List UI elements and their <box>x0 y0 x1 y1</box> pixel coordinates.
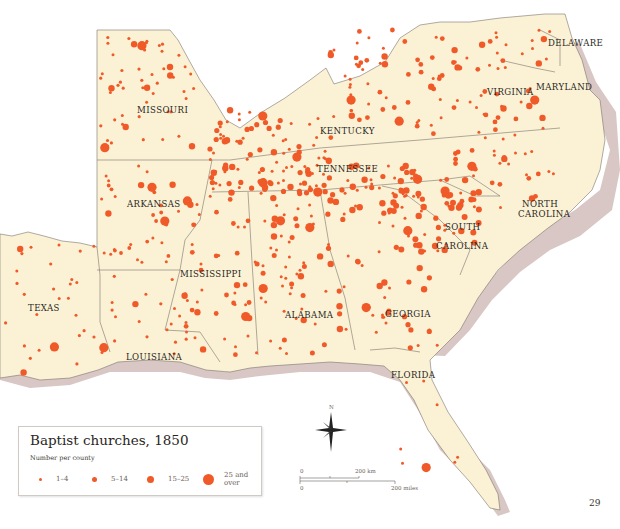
state-label: KENTUCKY <box>320 126 375 136</box>
scale-miles-end: 200 miles <box>391 485 418 491</box>
legend-label: 25 and over <box>224 471 252 487</box>
state-label: TENNESSEE <box>317 164 378 174</box>
state-label: NORTH <box>522 199 558 209</box>
legend-subtitle: Number per county <box>30 454 95 462</box>
legend-item-1-4: 1–4 <box>39 469 68 489</box>
scale-miles-start: 0 <box>300 485 304 491</box>
legend-box: Baptist churches, 1850 Number per county… <box>18 426 262 496</box>
state-label: ALABAMA <box>284 310 334 320</box>
legend-item-15-25: 15–25 <box>147 469 189 489</box>
legend-label: 5–14 <box>111 475 128 483</box>
scale-bar <box>300 476 395 484</box>
state-label: GEORGIA <box>385 309 431 319</box>
legend-label: 15–25 <box>168 475 189 483</box>
large-dot-icon <box>147 476 154 483</box>
state-label: MISSISSIPPI <box>180 269 242 279</box>
scale-km-start: 0 <box>300 468 304 474</box>
state-label: MISSOURI <box>137 105 188 115</box>
medium-dot-icon <box>92 477 97 482</box>
legend-item-5-14: 5–14 <box>92 469 128 489</box>
scale-km-end: 200 km <box>355 468 377 474</box>
state-label: LOUISIANA <box>126 352 183 362</box>
small-dot-icon <box>39 478 42 481</box>
state-label: CAROLINA <box>518 209 571 219</box>
state-label: MARYLAND <box>536 82 592 92</box>
xlarge-dot-icon <box>203 474 214 485</box>
state-label: VIRGINIA <box>486 87 534 97</box>
compass-rose-icon: N <box>315 404 347 452</box>
legend-item-25-over: 25 and over <box>203 469 252 489</box>
state-label: SOUTH <box>445 222 481 232</box>
legend-label: 1–4 <box>56 475 68 483</box>
state-label: ARKANSAS <box>126 199 181 209</box>
state-label: DELAWARE <box>548 38 603 48</box>
state-label: FLORIDA <box>391 370 436 380</box>
state-label: TEXAS <box>28 303 60 313</box>
compass-north-label: N <box>329 404 334 410</box>
page-number: 29 <box>589 498 600 508</box>
legend-title: Baptist churches, 1850 <box>30 432 189 448</box>
state-label: CAROLINA <box>436 241 489 251</box>
